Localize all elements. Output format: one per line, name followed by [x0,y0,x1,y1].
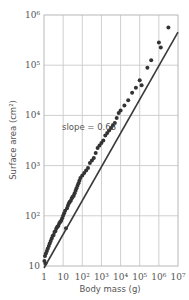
data-point [94,151,98,155]
data-point [92,156,96,160]
x-tick-label: 10 [57,272,69,282]
data-point [145,66,149,70]
y-tick-label: 10³ [25,161,40,171]
data-point [157,41,161,45]
data-point [126,98,130,102]
x-tick-label: 10⁵ [132,272,147,282]
y-tick-label: 10² [25,211,40,221]
x-tick-label: 1 [41,272,47,282]
y-tick-label: 10⁶ [25,10,40,20]
data-point [149,58,153,62]
data-point [86,166,90,170]
x-axis-label: Body mass (g) [79,284,140,294]
slope-annotation: slope = 0.63 [62,122,116,132]
x-tick-label: 10³ [94,272,109,282]
x-tick-label: 10² [75,272,90,282]
y-tick-labels: 1010²10³10⁴10⁵10⁶ [25,10,40,271]
x-tick-labels: 11010²10³10⁴10⁵10⁶10⁷ [41,272,186,282]
y-axis-label: Surface area (cm²) [8,100,18,180]
data-point [101,139,105,143]
data-point [122,103,126,107]
data-point [140,83,144,87]
data-point [159,46,163,50]
data-point [119,108,123,112]
scatter-chart: 1010²10³10⁴10⁵10⁶ 11010²10³10⁴10⁵10⁶10⁷ … [0,0,189,300]
y-tick-label: 10 [29,261,41,271]
x-tick-label: 10⁴ [113,272,128,282]
data-point [138,78,142,82]
data-point [115,116,119,120]
x-tick-label: 10⁷ [170,272,185,282]
data-points [42,26,170,266]
x-tick-label: 10⁶ [151,272,166,282]
data-point [166,26,170,30]
data-point [130,91,134,95]
y-tick-label: 10⁵ [25,60,40,70]
data-point [134,86,138,90]
y-tick-label: 10⁴ [25,110,40,120]
fit-line [44,32,178,268]
